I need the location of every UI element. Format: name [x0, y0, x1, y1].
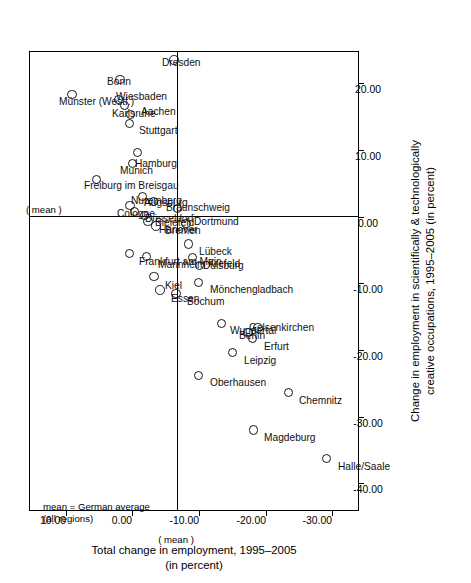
- data-point-label: Gelsenkirchen: [249, 323, 314, 333]
- data-point-label: Dortmund: [194, 217, 239, 227]
- data-point-label: Bochum: [187, 297, 224, 307]
- data-point: [151, 221, 161, 231]
- y-axis-tick-label: -20.00: [236, 515, 265, 526]
- data-point-label: Oberhausen: [210, 378, 266, 388]
- x-axis-label-line1: Change in employment in scientifically &…: [408, 51, 423, 511]
- data-point-label: Mönchengladbach: [210, 285, 293, 295]
- data-point: [217, 319, 227, 329]
- y-axis-label-line2: (in percent): [29, 558, 359, 573]
- data-point: [149, 272, 159, 282]
- data-point-label: Freiburg im Breisgau: [84, 181, 179, 191]
- data-point-label: Bonn: [107, 77, 131, 87]
- x-axis-tick-label: -40.00: [353, 484, 382, 495]
- data-point: [228, 348, 238, 358]
- y-axis-tick-label: -30.00: [303, 515, 332, 526]
- data-point-label: Lübeck: [199, 247, 232, 257]
- data-point-label: Halle/Saale: [338, 462, 390, 472]
- scatter-figure: Münster (Westf.)Freiburg im BreisgauBonn…: [0, 0, 471, 583]
- data-point-label: Braunschweig: [166, 203, 230, 213]
- mean-definition-note: mean = German average (all regions): [43, 501, 150, 526]
- x-axis-tick-label: -20.00: [353, 351, 382, 362]
- data-point: [133, 148, 143, 158]
- y-axis-tick: [199, 511, 200, 516]
- x-axis-tick-label: 20.00: [355, 84, 381, 95]
- data-point-label: Leipzig: [244, 356, 276, 366]
- data-point-label: Dresden: [162, 58, 201, 68]
- data-point: [194, 278, 204, 288]
- data-point: [322, 454, 332, 464]
- data-point: [184, 239, 194, 249]
- data-point: [284, 388, 294, 398]
- data-point-label: Hamburg: [135, 159, 177, 169]
- data-point: [125, 249, 135, 259]
- y-axis-tick-label: -10.00: [170, 515, 199, 526]
- data-point: [249, 425, 259, 435]
- plot-area: Münster (Westf.)Freiburg im BreisgauBonn…: [29, 51, 359, 511]
- data-point-label: Stuttgart: [139, 126, 178, 136]
- mean-label-y: ( mean ): [158, 534, 194, 545]
- x-axis-tick-label: 0.00: [358, 218, 378, 229]
- data-point: [155, 285, 165, 295]
- x-axis-label-line2: creative occupations, 1995–2005 (in perc…: [423, 51, 438, 511]
- data-point: [125, 119, 135, 129]
- x-axis-tick-label: 10.00: [355, 151, 381, 162]
- data-point: [181, 219, 191, 229]
- x-axis-tick-label: -30.00: [353, 418, 382, 429]
- data-point-label: Aachen: [141, 107, 176, 117]
- data-point-label: Chemnitz: [299, 396, 342, 406]
- mean-label-x: ( mean ): [26, 204, 62, 215]
- x-axis-label: Change in employment in scientifically &…: [408, 51, 439, 511]
- data-point-label: Wiesbaden: [116, 92, 167, 102]
- data-point-label: Magdeburg: [264, 433, 316, 443]
- data-point: [194, 371, 204, 381]
- chart-screenshot: Münster (Westf.)Freiburg im BreisgauBonn…: [0, 0, 471, 583]
- data-point-label: Erfurt: [264, 342, 289, 352]
- x-axis-tick-label: -10.00: [353, 284, 382, 295]
- data-point-label: Mannheim: [158, 260, 206, 270]
- y-axis-tick: [332, 511, 333, 516]
- data-point-label: Krefeld: [208, 259, 240, 269]
- y-axis-label: Total change in employment, 1995–2005(in…: [29, 543, 359, 583]
- data-point: [171, 289, 181, 299]
- y-axis-label-line1: Total change in employment, 1995–2005: [29, 543, 359, 558]
